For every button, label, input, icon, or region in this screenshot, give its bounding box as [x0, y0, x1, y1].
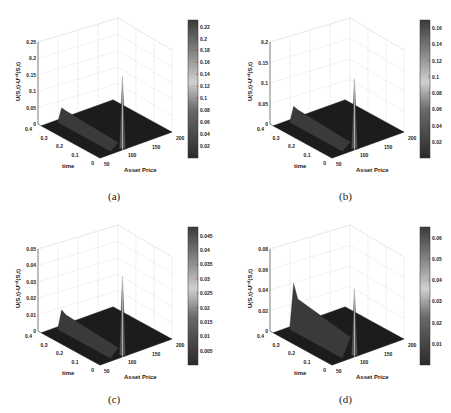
colorbar-tick-label: 0.1 [200, 95, 207, 101]
colorbar-tick-label: 0.04 [200, 247, 210, 253]
surface-plot: 00.050.10.150.20.40.30.20.1050100150200U… [232, 0, 451, 185]
colorbar-tick-label: 0.03 [200, 276, 210, 282]
time-tick-label: 0.1 [304, 152, 311, 158]
colorbar-tick-label: 0.04 [432, 277, 442, 283]
colorbar-tick-label: 0.12 [432, 58, 442, 64]
colorbar-tick-label: 0.04 [432, 123, 442, 129]
colorbar-tick-label: 0.2 [200, 36, 207, 42]
colorbar-tick-label: 0.02 [432, 139, 442, 145]
subfigure-caption: (c) [108, 393, 120, 405]
colorbar-tick-label: 0.025 [200, 290, 213, 296]
asset-price-tick-label: 100 [360, 359, 369, 365]
colorbar-tick-label: 0.06 [432, 106, 442, 112]
asset-price-axis-label: Asset Price [124, 374, 157, 380]
surface-plot: 00.010.020.030.040.050.40.30.20.10501001… [0, 207, 225, 392]
surface-plot-panel-c: 00.010.020.030.040.050.40.30.20.10501001… [0, 207, 225, 413]
asset-price-tick-label: 150 [152, 351, 161, 357]
colorbar [188, 20, 198, 158]
time-tick-label: 0.2 [288, 143, 295, 149]
time-tick-label: 0.4 [257, 333, 264, 339]
time-tick-label: 0 [323, 160, 326, 166]
time-tick-label: 0.1 [72, 152, 79, 158]
asset-price-tick-label: 200 [176, 342, 185, 348]
asset-price-tick-label: 150 [152, 144, 161, 150]
time-tick-label: 0 [91, 160, 94, 166]
z-tick-label: 0.15 [258, 60, 268, 66]
colorbar-tick-label: 0.22 [200, 24, 210, 30]
colorbar-tick-label: 0.06 [432, 235, 442, 241]
colorbar-tick-label: 0.05 [432, 256, 442, 262]
surface-plot: 00.020.040.060.080.40.30.20.105010015020… [232, 207, 451, 392]
colorbar-tick-label: 0.16 [432, 25, 442, 31]
z-tick-label: 0.15 [26, 72, 36, 78]
surface-plot-panel-a: 00.050.10.150.20.250.40.30.20.1050100150… [0, 0, 225, 206]
time-tick-label: 0.3 [273, 135, 280, 141]
time-tick-label: 0 [91, 367, 94, 373]
z-axis-label: U(S,t)-Uref(S,t) [14, 269, 21, 308]
time-axis-label: time [62, 163, 75, 169]
colorbar-tick-label: 0.04 [200, 131, 210, 137]
colorbar-tick-label: 0.02 [200, 143, 210, 149]
colorbar-tick-label: 0.1 [432, 74, 439, 80]
asset-price-tick-label: 50 [104, 368, 110, 374]
time-tick-label: 0.3 [273, 342, 280, 348]
colorbar-tick-label: 0.08 [432, 90, 442, 96]
time-tick-label: 0.2 [288, 350, 295, 356]
asset-price-tick-label: 200 [408, 135, 417, 141]
time-tick-label: 0.1 [72, 359, 79, 365]
asset-price-tick-label: 200 [176, 135, 185, 141]
asset-price-tick-label: 200 [408, 342, 417, 348]
subfigure-caption: (d) [339, 393, 352, 405]
surface-plot-panel-b: 00.050.10.150.20.40.30.20.1050100150200U… [232, 0, 451, 206]
z-tick-label: 0.08 [258, 246, 268, 252]
z-tick-label: 0 [33, 121, 36, 127]
time-tick-label: 0.1 [304, 359, 311, 365]
asset-price-axis-label: Asset Price [124, 167, 157, 173]
asset-price-tick-label: 50 [336, 161, 342, 167]
z-tick-label: 0.25 [26, 39, 36, 45]
z-tick-label: 0.2 [29, 55, 36, 61]
colorbar-tick-label: 0.01 [432, 341, 442, 347]
colorbar-tick-label: 0.14 [200, 71, 210, 77]
time-tick-label: 0.4 [257, 126, 264, 132]
asset-price-tick-label: 150 [384, 144, 393, 150]
asset-price-tick-label: 150 [384, 351, 393, 357]
subfigure-caption: (b) [339, 190, 352, 202]
time-axis-label: time [294, 370, 307, 376]
colorbar-tick-label: 0.08 [200, 107, 210, 113]
colorbar-tick-label: 0.16 [200, 59, 210, 65]
colorbar-tick-label: 0.035 [200, 261, 213, 267]
colorbar-tick-label: 0.14 [432, 41, 442, 47]
z-tick-label: 0 [265, 328, 268, 334]
z-tick-label: 0.05 [26, 105, 36, 111]
colorbar-tick-label: 0.015 [200, 319, 213, 325]
time-tick-label: 0.3 [41, 342, 48, 348]
time-tick-label: 0.2 [56, 143, 63, 149]
z-tick-label: 0.06 [258, 267, 268, 273]
asset-price-tick-label: 100 [128, 152, 137, 158]
colorbar-tick-label: 0.045 [200, 233, 213, 239]
time-tick-label: 0.3 [41, 135, 48, 141]
asset-price-axis-label: Asset Price [356, 374, 389, 380]
colorbar [420, 20, 430, 158]
asset-price-tick-label: 100 [360, 152, 369, 158]
colorbar-tick-label: 0.12 [200, 83, 210, 89]
z-tick-label: 0 [33, 328, 36, 334]
colorbar-tick-label: 0.02 [432, 320, 442, 326]
colorbar-tick-label: 0.18 [200, 47, 210, 53]
time-tick-label: 0 [323, 367, 326, 373]
z-tick-label: 0.2 [261, 39, 268, 45]
z-tick-label: 0.01 [26, 312, 36, 318]
asset-price-tick-label: 50 [336, 368, 342, 374]
asset-price-axis-label: Asset Price [356, 167, 389, 173]
surface-plot: 00.050.10.150.20.250.40.30.20.1050100150… [0, 0, 225, 185]
surface-plot-panel-d: 00.020.040.060.080.40.30.20.105010015020… [232, 207, 451, 413]
time-tick-label: 0.2 [56, 350, 63, 356]
colorbar [188, 227, 198, 365]
z-tick-label: 0.05 [26, 246, 36, 252]
z-tick-label: 0.04 [26, 262, 36, 268]
colorbar-tick-label: 0.005 [200, 348, 213, 354]
time-tick-label: 0.4 [25, 126, 32, 132]
z-tick-label: 0.03 [26, 279, 36, 285]
z-tick-label: 0.02 [26, 295, 36, 301]
